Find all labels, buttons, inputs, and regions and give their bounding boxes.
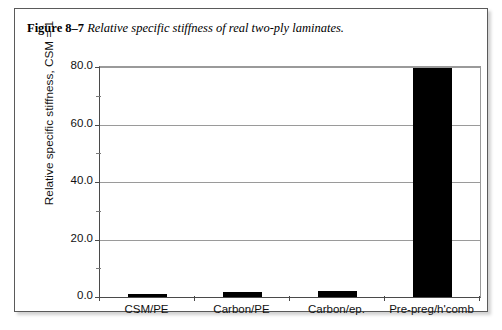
x-axis-tick-labels: CSM/PECarbon/PECarbon/ep.Pre-preg/h'comb xyxy=(99,303,479,323)
bar xyxy=(413,68,453,297)
y-axis-tick-label: 80.0 xyxy=(47,60,93,71)
x-axis-category-tick xyxy=(479,296,480,301)
y-axis-tick-label: 20.0 xyxy=(47,233,93,244)
y-axis-tick-label: 0.0 xyxy=(47,290,93,301)
figure-caption-title: Relative specific stiffness of real two-… xyxy=(87,21,344,35)
x-axis-category-tick xyxy=(99,296,100,301)
x-axis-category-label: Pre-preg/h'comb xyxy=(374,303,489,315)
x-axis-category-tick xyxy=(194,296,195,301)
y-axis-tick-label: 40.0 xyxy=(47,175,93,186)
figure-root: Figure 8–7 Relative specific stiffness o… xyxy=(0,0,502,330)
x-axis-category-tick xyxy=(289,296,290,301)
plot-area xyxy=(99,66,481,298)
x-axis-category-tick xyxy=(384,296,385,301)
figure-border-box: Figure 8–7 Relative specific stiffness o… xyxy=(14,8,488,312)
y-axis-tick-labels: 0.020.040.060.080.0 xyxy=(45,66,93,296)
y-axis-tick-label: 60.0 xyxy=(47,118,93,129)
bar-series xyxy=(100,67,480,297)
figure-caption: Figure 8–7 Relative specific stiffness o… xyxy=(27,21,467,36)
